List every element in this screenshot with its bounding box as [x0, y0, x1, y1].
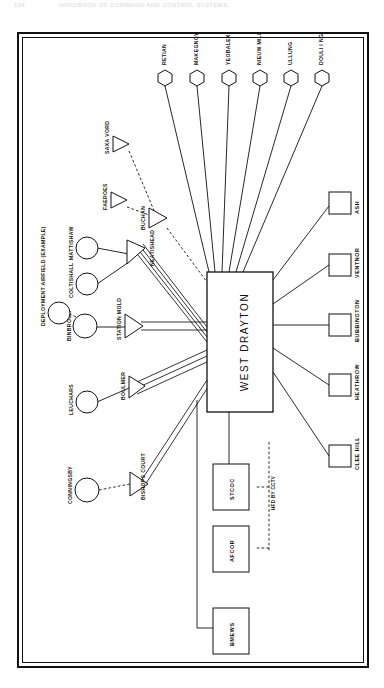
hexagon-shape[interactable]	[284, 70, 298, 86]
circle-shape[interactable]	[48, 302, 70, 324]
node-tri-1-label: SAXA VORD	[104, 121, 110, 154]
link-coltishall-neatishead	[97, 262, 129, 284]
node-cir-1[interactable]: MATTISHAW	[68, 226, 98, 260]
node-cir-6-deployment-airfield[interactable]: DEPLOYMENT AIRFIELD (EXAMPLE)	[40, 226, 70, 326]
node-hex-4[interactable]: NIEUW MILLIGEN	[253, 32, 267, 86]
node-hex-2-label: MAKEGNOY	[193, 32, 199, 65]
node-hex-1-label: RETIAN	[161, 44, 167, 65]
node-cir-5[interactable]: CONNINGSBY	[67, 466, 99, 504]
link-sq-4-hub	[273, 348, 329, 385]
node-cir-5-label: CONNINGSBY	[67, 466, 73, 504]
link-conningsby-bishopscourt	[99, 484, 130, 490]
node-sq-2-label: VENTNOR	[354, 247, 360, 278]
node-box-3[interactable]: BMEWS	[213, 608, 249, 654]
circle-node-group: MATTISHAW COLTISHALL BINBROOK LEUCHARS C…	[40, 226, 99, 504]
node-box-1-label: STCOC	[229, 478, 235, 500]
node-sq-3[interactable]: BUBBINGTON	[329, 300, 360, 342]
hex-link-group	[165, 86, 322, 272]
circle-shape[interactable]	[75, 478, 99, 502]
node-sq-2[interactable]: VENTNOR	[329, 247, 360, 278]
node-sq-1[interactable]: ASH	[329, 192, 360, 214]
triangle-shape[interactable]	[113, 136, 129, 152]
page-number: 104	[14, 2, 25, 8]
node-hex-6[interactable]: DOULI I NG	[315, 34, 329, 86]
triangle-shape[interactable]	[149, 208, 167, 228]
node-tri-6[interactable]: BOULMER	[120, 372, 145, 400]
cctv-note-label: HFD BY CCTV	[271, 475, 276, 510]
hub-node-west-drayton[interactable]: WEST DRAYTON	[207, 272, 273, 412]
triangle-shape[interactable]	[111, 192, 127, 208]
hub-label: WEST DRAYTON	[239, 293, 250, 392]
node-sq-5[interactable]: CLEE HILL	[329, 437, 360, 470]
hexagon-shape[interactable]	[253, 70, 267, 86]
node-hex-3[interactable]: YEOBALEX	[222, 34, 236, 86]
node-sq-3-label: BUBBINGTON	[354, 300, 360, 342]
square-shape[interactable]	[329, 192, 351, 214]
node-cir-4-label: LEUCHARS	[68, 384, 74, 415]
link-sq-1-hub	[273, 206, 329, 280]
running-head-title: HANDBOOK OF COMMAND AND CONTROL SYSTEMS	[59, 2, 227, 8]
link-mattishaw-neatishead	[97, 248, 129, 254]
node-tri-7[interactable]: BISHOPS COURT	[130, 452, 148, 500]
link-bishopscourt-hub-b	[143, 384, 210, 488]
node-box-2[interactable]: AFCOR	[213, 526, 249, 572]
node-sq-1-label: ASH	[354, 201, 360, 214]
deployment-airfield-label: DEPLOYMENT AIRFIELD (EXAMPLE)	[40, 226, 46, 326]
circle-shape[interactable]	[76, 273, 98, 295]
node-tri-1[interactable]: SAXA VORD	[104, 121, 129, 154]
circle-shape[interactable]	[76, 237, 98, 259]
link-buchan-hub	[167, 228, 207, 282]
link-hex-2-hub	[197, 86, 215, 272]
node-tri-2[interactable]: FAEROES	[102, 183, 127, 210]
hexagon-shape[interactable]	[222, 70, 236, 86]
square-shape[interactable]	[329, 374, 351, 396]
square-link-group	[273, 206, 329, 456]
node-tri-3-label: BUCHAN	[140, 206, 146, 230]
node-hex-3-label: YEOBALEX	[225, 34, 231, 65]
hexagon-shape[interactable]	[158, 70, 172, 86]
network-diagram: WEST DRAYTON RETIAN MAKEGNOY YEOBALEX NI…	[17, 32, 369, 668]
node-tri-6-label: BOULMER	[120, 372, 126, 400]
node-hex-1[interactable]: RETIAN	[158, 44, 172, 86]
square-shape[interactable]	[329, 445, 351, 467]
square-shape[interactable]	[329, 314, 351, 336]
node-box-2-label: AFCOR	[229, 540, 235, 562]
node-tri-7-label: BISHOPS COURT	[140, 452, 146, 500]
node-hex-2[interactable]: MAKEGNOY	[190, 32, 204, 86]
link-boulmer-hub-a	[137, 350, 207, 382]
node-sq-4[interactable]: HEATHROW	[329, 364, 360, 400]
node-box-3-label: BMEWS	[229, 622, 235, 646]
left-link-group	[97, 244, 210, 490]
node-hex-5-label: ULLUNG	[287, 42, 293, 65]
page-canvas: 104HANDBOOK OF COMMAND AND CONTROL SYSTE…	[0, 0, 384, 688]
square-shape[interactable]	[329, 254, 351, 276]
hexagon-shape[interactable]	[315, 70, 329, 86]
square-node-group: ASH VENTNOR BUBBINGTON HEATHROW CLEE HIL…	[329, 192, 360, 470]
node-tri-5-label: STATION MOLD	[116, 298, 122, 340]
node-cir-4[interactable]: LEUCHARS	[68, 384, 98, 415]
circle-shape[interactable]	[73, 314, 97, 338]
node-tri-2-label: FAEROES	[102, 183, 108, 210]
node-hex-6-label: DOULI I NG	[318, 34, 324, 65]
node-cir-1-label: MATTISHAW	[68, 226, 74, 260]
node-sq-4-label: HEATHROW	[354, 364, 360, 400]
node-tri-4-label: NEATISHEAD	[149, 230, 155, 266]
link-sq-5-hub	[273, 372, 329, 456]
node-cir-2-label: COLTISHALL	[68, 263, 74, 298]
node-hex-4-label: NIEUW MILLIGEN	[256, 32, 262, 65]
node-hex-5[interactable]: ULLUNG	[284, 42, 298, 86]
command-box-group: STCOC AFCOR BMEWS HFD BY CCTV	[213, 464, 276, 654]
node-tri-5[interactable]: STATION MOLD	[116, 298, 143, 340]
node-cir-2[interactable]: COLTISHALL	[68, 263, 98, 298]
node-cir-3[interactable]: BINBROOK	[66, 310, 97, 341]
triangle-shape[interactable]	[125, 314, 143, 338]
scan-header: 104HANDBOOK OF COMMAND AND CONTROL SYSTE…	[14, 2, 314, 11]
link-hex-3-hub	[222, 86, 229, 272]
node-tri-4[interactable]: NEATISHEAD	[127, 230, 155, 266]
node-box-1[interactable]: STCOC	[213, 464, 249, 510]
circle-shape[interactable]	[76, 391, 98, 413]
link-neatishead-hub-b	[137, 248, 207, 337]
hexagon-shape[interactable]	[190, 70, 204, 86]
link-sq-2-hub	[273, 265, 329, 304]
link-neatishead-hub-a	[134, 250, 207, 342]
